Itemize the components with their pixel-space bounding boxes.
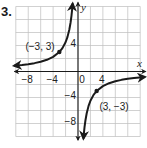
point-label: (3, −3)	[99, 101, 128, 112]
y-tick-label: −8	[65, 116, 77, 127]
x-tick-label: 0	[79, 74, 85, 85]
y-tick-label: 4	[70, 38, 76, 49]
hyperbola-graph: x y −8−4044−4−8 (−3, 3)(3, −3)	[0, 0, 147, 148]
curve-branch	[14, 3, 73, 65]
point-marker	[94, 89, 98, 93]
x-axis-label: x	[136, 57, 142, 69]
x-tick-label: −4	[46, 74, 58, 85]
x-tick-label: 4	[99, 74, 105, 85]
y-axis-label: y	[80, 1, 86, 13]
point-marker	[57, 50, 61, 54]
x-tick-label: −8	[22, 74, 34, 85]
point-label: (−3, 3)	[25, 41, 54, 52]
y-tick-label: −4	[65, 90, 77, 101]
